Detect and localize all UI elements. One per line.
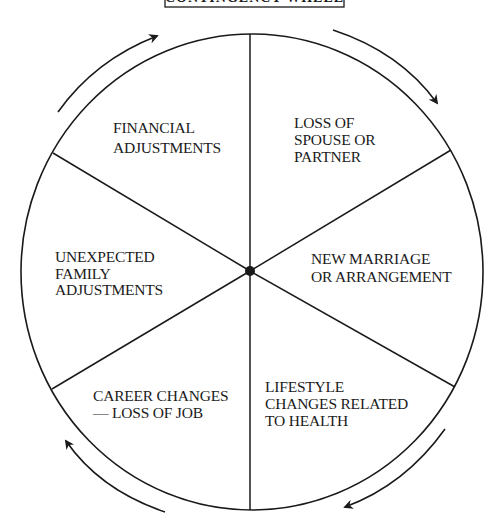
arrow-top-right-icon (333, 30, 437, 103)
segment-new-marriage: NEW MARRIAGE OR ARRANGEMENT (311, 250, 452, 285)
segment-label-line: SPOUSE OR (294, 131, 376, 148)
arrow-bottom-right-icon (345, 429, 445, 507)
hub-dot (245, 266, 255, 276)
title-box: CONTINGENCY WHEEL (165, 0, 344, 7)
segment-financial: FINANCIAL ADJUSTMENTS (113, 119, 221, 156)
segment-label-line: CAREER CHANGES (93, 387, 228, 404)
contingency-wheel-diagram: CONTINGENCY WHEEL FINANCIAL ADJUSTMENTS … (0, 0, 501, 528)
arrow-top-left-icon (58, 36, 157, 112)
title-text: CONTINGENCY WHEEL (165, 0, 344, 5)
segment-label-line: LOSS OF (294, 114, 355, 131)
segment-label-line: UNEXPECTED (55, 248, 155, 265)
segment-loss-of-spouse: LOSS OF SPOUSE OR PARTNER (294, 114, 376, 165)
spoke-lower-right (250, 271, 455, 387)
segment-label-line: TO HEALTH (265, 412, 348, 429)
arrow-bottom-left-icon (66, 441, 165, 512)
segment-label-line: CHANGES RELATED (265, 395, 408, 412)
segment-label-line: FINANCIAL (113, 119, 195, 136)
segment-label-line: — LOSS OF JOB (92, 404, 203, 421)
segment-unexpected-family: UNEXPECTED FAMILY ADJUSTMENTS (55, 248, 163, 298)
segment-label-line: LIFESTYLE (265, 378, 344, 395)
segment-label-line: OR ARRANGEMENT (311, 268, 452, 285)
segment-label-line: ADJUSTMENTS (55, 281, 163, 298)
segment-career-changes: CAREER CHANGES — LOSS OF JOB (92, 387, 228, 421)
segment-label-line: NEW MARRIAGE (311, 250, 430, 267)
segment-label-line: ADJUSTMENTS (113, 139, 221, 156)
segment-label-line: PARTNER (294, 148, 362, 165)
segment-lifestyle-health: LIFESTYLE CHANGES RELATED TO HEALTH (265, 378, 408, 429)
segment-label-line: FAMILY (55, 265, 111, 282)
